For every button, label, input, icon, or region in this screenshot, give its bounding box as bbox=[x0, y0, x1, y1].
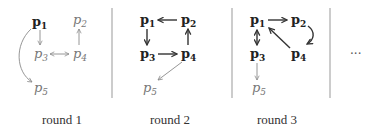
node-p4: p4 bbox=[181, 46, 196, 63]
node-p2: p2 bbox=[291, 12, 306, 29]
node-p3: p3 bbox=[34, 46, 48, 63]
node-p3: p3 bbox=[250, 46, 265, 63]
node-p4: p4 bbox=[291, 46, 306, 63]
rounds-diagram: p1 p2 p3 p4 p5 round 1 p1 p2 p3 p4 p5 ro… bbox=[0, 0, 377, 132]
node-p2: p2 bbox=[181, 12, 196, 29]
edge-p2-p4 bbox=[307, 26, 313, 44]
node-p1: p1 bbox=[140, 12, 155, 29]
ellipsis: ··· bbox=[350, 47, 361, 61]
panel-round-3: p1 p2 p3 p4 p5 round 3 bbox=[250, 12, 313, 127]
edge-p1-p5 bbox=[19, 29, 32, 82]
edge-p4-p5 bbox=[158, 62, 182, 80]
node-p4: p4 bbox=[73, 46, 87, 63]
caption-round-2: round 2 bbox=[150, 112, 190, 127]
node-p5: p5 bbox=[34, 80, 48, 97]
caption-round-1: round 1 bbox=[42, 112, 82, 127]
panel-round-1: p1 p2 p3 p4 p5 round 1 bbox=[19, 12, 87, 127]
node-p5: p5 bbox=[143, 80, 157, 97]
node-p1: p1 bbox=[32, 14, 47, 31]
node-p5: p5 bbox=[252, 80, 266, 97]
node-p3: p3 bbox=[140, 46, 155, 63]
node-p1: p1 bbox=[250, 12, 265, 29]
panel-round-2: p1 p2 p3 p4 p5 round 2 bbox=[140, 12, 196, 127]
edge-p4-p1 bbox=[269, 28, 290, 48]
caption-round-3: round 3 bbox=[257, 112, 297, 127]
node-p2: p2 bbox=[73, 12, 87, 29]
